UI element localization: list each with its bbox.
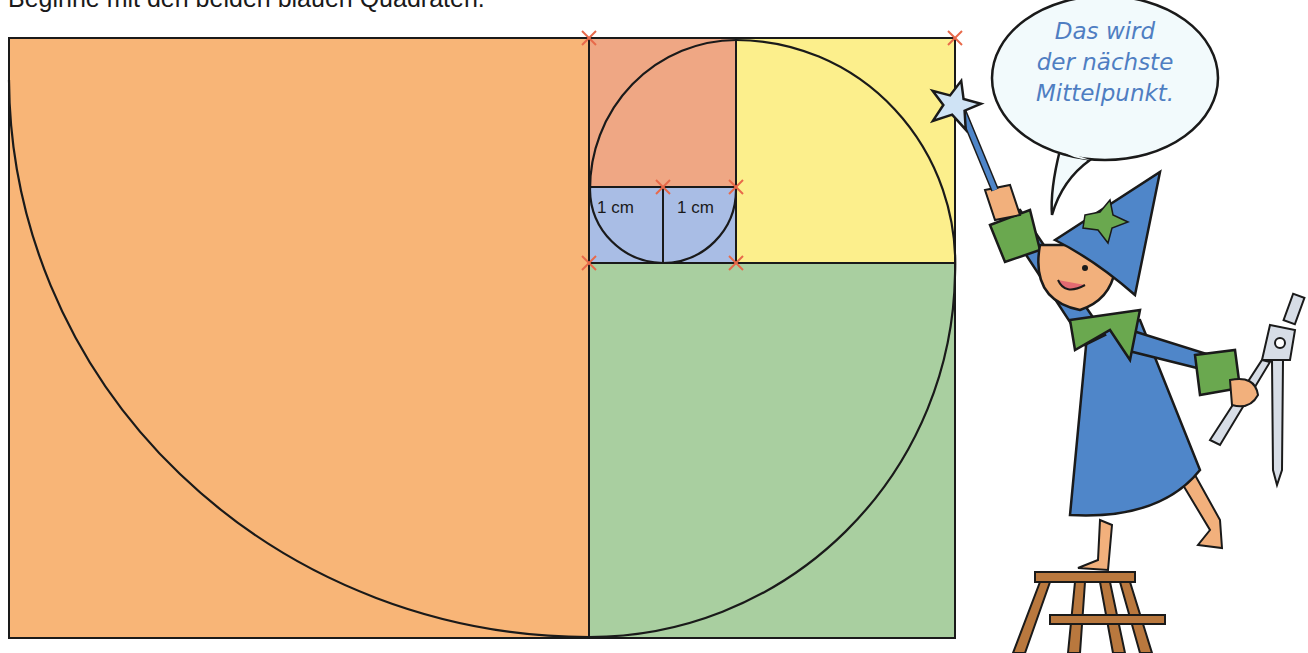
yellow-square — [736, 38, 955, 263]
bubble-line: der nächste — [1010, 47, 1200, 78]
green-square — [589, 263, 955, 638]
speech-bubble-text: Das wird der nächste Mittelpunkt. — [1010, 16, 1200, 109]
blue-left-label: 1 cm — [597, 198, 634, 218]
ladder — [1013, 572, 1165, 653]
bubble-line: Das wird — [1010, 16, 1200, 47]
bubble-line: Mittelpunkt. — [1010, 78, 1200, 109]
orange-square — [9, 38, 589, 638]
blue-right-label: 1 cm — [677, 198, 714, 218]
wizard-illustration — [925, 74, 1304, 653]
